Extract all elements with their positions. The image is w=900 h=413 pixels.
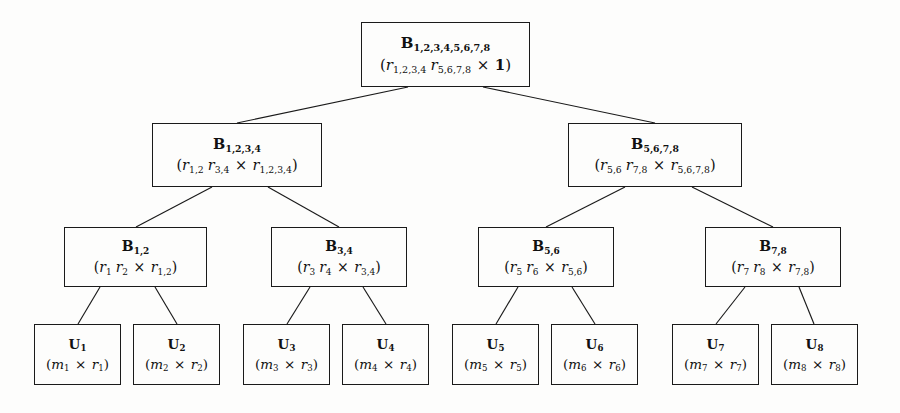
node-dimensions: (r1,2,3,4 r5,6,7,8 × 1) [380, 56, 511, 75]
tree-edge-b5678-b56 [546, 187, 625, 227]
tree-edge-b78-u8 [799, 287, 814, 324]
node-dimensions: (m4 × r4) [354, 356, 417, 373]
tree-edge-b78-u7 [716, 287, 745, 324]
node-label: U4 [377, 336, 395, 353]
node-dimensions: (r7 r8 × r7,8) [731, 259, 814, 277]
tree-edge-b5678-b78 [692, 187, 773, 227]
node-dimensions: (r3 r4 × r3,4) [297, 259, 380, 277]
node-dimensions: (m6 × r6) [563, 356, 626, 373]
node-label: U5 [487, 336, 505, 353]
node-dimensions: (r1 r2 × r1,2) [94, 259, 177, 277]
node-dimensions: (m3 × r3) [255, 356, 318, 373]
tree-node-u6: U6(m6 × r6) [551, 324, 638, 385]
node-label: B3,4 [325, 238, 353, 256]
tree-node-b5678: B5,6,7,8(r5,6 r7,8 × r5,6,7,8) [568, 123, 742, 187]
node-dimensions: (r5,6 r7,8 × r5,6,7,8) [594, 157, 715, 175]
tree-node-b1234: B1,2,3,4(r1,2 r3,4 × r1,2,3,4) [152, 123, 322, 187]
node-label: U2 [168, 336, 186, 353]
tree-node-u5: U5(m5 × r5) [452, 324, 539, 385]
tree-node-u7: U7(m7 × r7) [672, 324, 759, 385]
node-label: B5,6 [532, 238, 560, 256]
tree-node-u3: U3(m3 × r3) [243, 324, 330, 385]
tree-node-b12345678: B1,2,3,4,5,6,7,8(r1,2,3,4 r5,6,7,8 × 1) [361, 22, 530, 87]
node-label: U8 [806, 336, 824, 353]
node-dimensions: (m1 × r1) [46, 356, 109, 373]
tree-edge-b12345678-b5678 [483, 87, 655, 123]
tree-node-u2: U2(m2 × r2) [133, 324, 220, 385]
node-label: U6 [586, 336, 604, 353]
tree-node-b12: B1,2(r1 r2 × r1,2) [64, 227, 207, 287]
node-label: B5,6,7,8 [631, 135, 679, 154]
node-dimensions: (m8 × r8) [783, 356, 846, 373]
node-dimensions: (m7 × r7) [684, 356, 747, 373]
tree-edge-b56-u5 [496, 287, 518, 324]
node-label: B1,2,3,4,5,6,7,8 [401, 34, 491, 53]
tree-node-b56: B5,6(r5 r6 × r5,6) [478, 227, 614, 287]
node-label: U7 [707, 336, 725, 353]
tree-diagram-canvas: B1,2,3,4,5,6,7,8(r1,2,3,4 r5,6,7,8 × 1)B… [0, 0, 900, 413]
tree-edge-b34-u3 [287, 287, 310, 324]
tree-node-u1: U1(m1 × r1) [34, 324, 121, 385]
node-dimensions: (m2 × r2) [145, 356, 208, 373]
node-dimensions: (r1,2 r3,4 × r1,2,3,4) [176, 157, 297, 175]
tree-node-b34: B3,4(r3 r4 × r3,4) [271, 227, 407, 287]
node-label: B1,2 [122, 238, 150, 256]
node-label: U1 [69, 336, 87, 353]
tree-edge-b12-u2 [155, 287, 177, 324]
node-dimensions: (m5 × r5) [464, 356, 527, 373]
tree-node-b78: B7,8(r7 r8 × r7,8) [705, 227, 841, 287]
tree-edge-b56-u6 [572, 287, 595, 324]
node-dimensions: (r5 r6 × r5,6) [504, 259, 587, 277]
tree-edge-b1234-b12 [136, 187, 212, 227]
tree-edge-b34-u4 [363, 287, 386, 324]
tree-edge-b12-u1 [78, 287, 100, 324]
tree-node-u8: U8(m8 × r8) [771, 324, 858, 385]
tree-edge-b1234-b34 [268, 187, 339, 227]
node-label: U3 [278, 336, 296, 353]
tree-node-u4: U4(m4 × r4) [342, 324, 429, 385]
node-label: B1,2,3,4 [213, 135, 261, 154]
tree-edge-b12345678-b1234 [237, 87, 408, 123]
node-label: B7,8 [759, 238, 787, 256]
